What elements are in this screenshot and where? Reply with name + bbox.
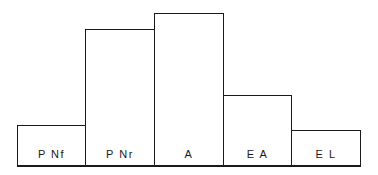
bar-pnr: P Nr [85,29,155,167]
x-axis-baseline [17,165,361,167]
bar-label-el: E L [292,148,360,160]
bar-ea: E A [223,95,292,167]
bar-pnf: P Nf [17,125,86,167]
bar-label-ea: E A [224,148,291,160]
histogram-chart: P Nf P Nr A E A E L [0,0,378,175]
bar-label-a: A [155,148,223,160]
bar-label-pnf: P Nf [18,148,85,160]
bar-a: A [154,13,224,167]
bar-el: E L [291,130,361,167]
bar-label-pnr: P Nr [86,148,154,160]
